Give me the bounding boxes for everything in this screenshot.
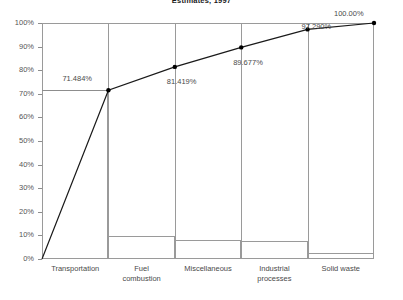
- bar: [108, 236, 174, 259]
- x-label-line: combustion: [100, 274, 182, 284]
- x-axis-category-label: Solid waste: [300, 264, 382, 274]
- y-tick-label: 50%: [0, 136, 34, 145]
- y-tick: [38, 70, 42, 71]
- bar: [308, 253, 374, 259]
- category-divider: [308, 23, 309, 259]
- y-tick: [38, 47, 42, 48]
- y-tick: [38, 259, 42, 260]
- y-tick-label: 40%: [0, 160, 34, 169]
- data-point-label: 71.484%: [62, 74, 92, 83]
- y-tick-label: 80%: [0, 65, 34, 74]
- y-tick-label: 60%: [0, 112, 34, 121]
- data-point-label: 97.290%: [302, 22, 332, 31]
- data-point-label: 89.677%: [233, 58, 263, 67]
- bar: [241, 241, 307, 259]
- pareto-chart: Estimates, 1997 0%10%20%30%40%50%60%70%8…: [0, 0, 403, 300]
- y-tick: [38, 23, 42, 24]
- y-tick-label: 20%: [0, 207, 34, 216]
- y-tick-label: 0%: [0, 254, 34, 263]
- x-label-line: processes: [233, 274, 315, 284]
- y-tick-label: 10%: [0, 230, 34, 239]
- data-point-label: 100.00%: [334, 9, 364, 18]
- y-tick-label: 70%: [0, 89, 34, 98]
- category-divider: [108, 23, 109, 259]
- bar: [175, 240, 241, 259]
- data-point-label: 81.419%: [167, 77, 197, 86]
- y-tick-label: 90%: [0, 42, 34, 51]
- bar: [42, 90, 108, 259]
- chart-title: Estimates, 1997: [0, 0, 403, 5]
- y-tick-label: 100%: [0, 18, 34, 27]
- x-label-line: Solid waste: [300, 264, 382, 274]
- first-point-guide: [42, 90, 108, 91]
- y-tick-label: 30%: [0, 183, 34, 192]
- category-divider: [175, 23, 176, 259]
